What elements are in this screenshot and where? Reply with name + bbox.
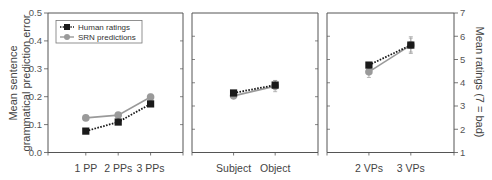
legend-circle-icon <box>64 34 70 40</box>
x-category-label: Subject <box>216 162 251 174</box>
right-tick-label: 4 <box>460 77 465 88</box>
left-tick-label: 0.1 <box>29 119 42 130</box>
left-tick-label: 0.0 <box>29 147 42 158</box>
x-category-label: 2 VPs <box>355 162 383 174</box>
panel-2: SubjectObject <box>192 13 318 174</box>
srn-predictions-series <box>82 93 154 122</box>
x-category-label: 3 PPs <box>137 162 165 174</box>
x-category-label: 3 VPs <box>397 162 425 174</box>
legend-label: SRN predictions <box>78 33 136 42</box>
x-category-label: 1 PP <box>74 162 97 174</box>
left-tick-label: 0.5 <box>29 7 42 18</box>
panel-3: 2 VPs3 VPs <box>327 13 454 174</box>
chart: Mean sentencegrammatical prediction erro… <box>0 0 492 180</box>
right-y-axis: 1234567 <box>454 7 465 158</box>
left-tick-label: 0.2 <box>29 91 42 102</box>
legend: Human ratingsSRN predictions <box>56 21 142 44</box>
square-marker <box>272 81 279 88</box>
srn-predictions-series <box>365 37 415 78</box>
right-axis-title: Mean ratings (7 = bad) <box>474 27 486 138</box>
square-marker <box>147 100 154 107</box>
circle-marker <box>365 68 373 76</box>
circle-marker <box>114 111 122 119</box>
right-tick-label: 2 <box>460 124 465 135</box>
right-tick-label: 1 <box>460 147 465 158</box>
right-tick-label: 6 <box>460 31 465 42</box>
square-marker <box>115 118 122 125</box>
human-ratings-series <box>230 80 279 96</box>
circle-marker <box>147 93 155 101</box>
human-ratings-series <box>365 38 414 69</box>
square-marker <box>82 128 89 135</box>
legend-label: Human ratings <box>78 23 130 32</box>
legend-square-icon <box>64 24 70 30</box>
left-axis-title-line1: Mean sentence <box>7 45 19 120</box>
square-marker <box>365 61 372 68</box>
left-tick-label: 0.3 <box>29 63 42 74</box>
square-marker <box>407 41 414 48</box>
x-category-label: 2 PPs <box>104 162 132 174</box>
left-tick-label: 0.4 <box>29 35 42 46</box>
square-marker <box>230 89 237 96</box>
right-tick-label: 7 <box>460 7 465 18</box>
x-category-label: Object <box>260 162 290 174</box>
right-tick-label: 5 <box>460 54 465 65</box>
right-tick-label: 3 <box>460 100 465 111</box>
circle-marker <box>82 114 90 122</box>
right-axis-title-text: Mean ratings (7 = bad) <box>474 27 486 138</box>
